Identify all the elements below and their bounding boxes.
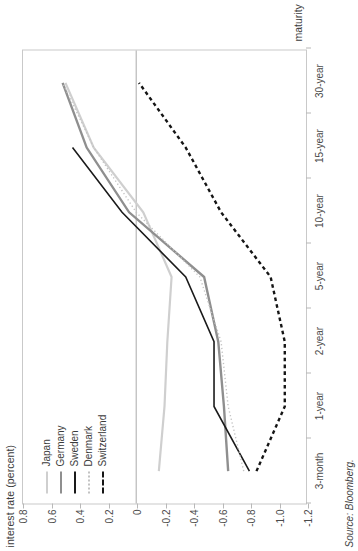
legend-label: Germany (55, 425, 66, 466)
legend-item-sweden[interactable]: Sweden (68, 414, 81, 493)
y-axis-title: interest rate (percent) (4, 444, 16, 547)
y-axis-tick-label: -1.2 (303, 509, 314, 526)
chart-figure: interest rate (percent) 0.80.60.40.20-0.… (0, 0, 358, 551)
x-axis-tick-label: 15-year (314, 129, 325, 163)
y-axis-tick-label: 0.4 (75, 509, 86, 523)
legend-swatch-switzerland-icon (102, 471, 104, 493)
x-axis-tick-label: 5-year (314, 261, 325, 289)
x-axis-tick (306, 307, 311, 308)
y-axis-tick-label: 0 (132, 509, 143, 515)
series-line-switzerland (139, 82, 285, 470)
legend-item-denmark[interactable]: Denmark (82, 414, 95, 493)
x-axis-tick (306, 437, 311, 438)
y-axis-tick-label: -0.2 (160, 509, 171, 526)
legend-label: Denmark (83, 425, 94, 466)
x-axis-title: maturity (292, 4, 304, 41)
y-axis-tick (280, 503, 281, 508)
y-axis-tick (251, 503, 252, 508)
x-axis-tick (306, 502, 311, 503)
x-axis-tick-label: 30-year (314, 64, 325, 98)
y-axis-tick-label: -0.8 (246, 509, 257, 526)
y-axis-tick (109, 503, 110, 508)
chart-legend: JapanGermanySwedenDenmarkSwitzerland (40, 414, 109, 493)
y-axis-tick (194, 503, 195, 508)
y-axis-tick (52, 503, 53, 508)
legend-item-switzerland[interactable]: Switzerland (96, 414, 109, 493)
y-axis-tick (223, 503, 224, 508)
legend-item-japan[interactable]: Japan (40, 414, 53, 493)
x-axis-tick-label: 3-month (314, 452, 325, 489)
x-axis-tick (306, 372, 311, 373)
y-axis-tick (137, 503, 138, 508)
y-axis-tick-label: 0.2 (103, 509, 114, 523)
y-axis-tick-label: -0.6 (217, 509, 228, 526)
y-axis-tick (23, 503, 24, 508)
y-axis-tick-label: -0.4 (189, 509, 200, 526)
x-axis-tick (306, 47, 311, 48)
x-axis-tick-label: 10-year (314, 194, 325, 228)
x-axis-tick (306, 242, 311, 243)
source-note: Source: Bloomberg. (344, 459, 355, 547)
series-line-germany (63, 82, 229, 470)
series-line-japan (65, 82, 171, 470)
legend-item-germany[interactable]: Germany (54, 414, 67, 493)
y-axis-tick (166, 503, 167, 508)
legend-label: Switzerland (97, 414, 108, 466)
legend-swatch-denmark-icon (88, 471, 90, 493)
x-axis-tick-label: 2-year (314, 326, 325, 354)
x-axis-tick (306, 177, 311, 178)
x-axis-tick (306, 112, 311, 113)
legend-label: Sweden (69, 430, 80, 466)
legend-label: Japan (41, 439, 52, 466)
y-axis-tick-label: 0.6 (46, 509, 57, 523)
legend-swatch-sweden-icon (74, 471, 76, 493)
legend-swatch-japan-icon (46, 471, 48, 493)
y-axis-tick-label: -1.0 (274, 509, 285, 526)
y-axis-tick (308, 503, 309, 508)
legend-swatch-germany-icon (60, 471, 62, 493)
x-axis-tick-label: 1-year (314, 391, 325, 419)
y-axis-tick-label: 0.8 (18, 509, 29, 523)
y-axis-tick (80, 503, 81, 508)
